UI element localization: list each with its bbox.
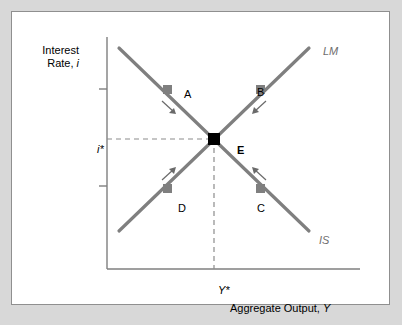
is-curve-label: IS (319, 234, 329, 247)
x-axis-label: Aggregate Output, Y (230, 302, 330, 315)
axis-variable-symbol: Y (323, 302, 330, 314)
axis-variable-symbol: i (77, 57, 79, 69)
y-equilibrium-tick-label: i* (97, 143, 104, 156)
point-label-d: D (178, 202, 186, 215)
y-axis-label-line2: Rate, i (47, 57, 79, 69)
point-label-b: B (257, 86, 264, 99)
point-marker-c[interactable] (256, 184, 265, 193)
point-marker-e[interactable] (208, 133, 220, 145)
point-label-e: E (237, 144, 244, 157)
point-label-a: A (184, 88, 191, 101)
point-label-c: C (257, 202, 265, 215)
figure-root: Interest Rate, i Aggregate Output, Y i* … (0, 0, 402, 325)
lm-curve-label: LM (323, 45, 338, 58)
figure-panel: Interest Rate, i Aggregate Output, Y i* … (11, 11, 390, 305)
y-axis-label: Interest Rate, i (0, 44, 79, 69)
point-marker-a[interactable] (163, 85, 172, 94)
y-axis-label-line1: Interest (42, 44, 79, 56)
point-marker-d[interactable] (163, 184, 172, 193)
x-equilibrium-tick-label: Y* (218, 284, 230, 297)
